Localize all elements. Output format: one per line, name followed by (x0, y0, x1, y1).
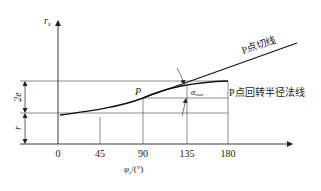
x-tick-45: 45 (95, 148, 105, 159)
cam-pressure-angle-diagram: rx 2e r P αmax P点切线 P点回转半径法线 0 45 90 135… (0, 0, 321, 191)
x-axis-label: φx/(°) (124, 164, 143, 175)
y-axis-label: rx (44, 15, 51, 27)
normal-label: P点回转半径法线 (229, 86, 305, 98)
point-p-label: P (134, 86, 141, 97)
dimension-r-label: r (12, 126, 23, 130)
x-tick-180: 180 (221, 148, 236, 159)
x-tick-90: 90 (138, 148, 148, 159)
x-tick-0: 0 (56, 148, 61, 159)
x-tick-135: 135 (180, 148, 195, 159)
angle-arc-lower (182, 99, 186, 116)
dimension-2e-label: 2e (12, 92, 23, 102)
angle-arc-upper (177, 68, 184, 84)
alpha-max-label: αmax (191, 88, 204, 97)
